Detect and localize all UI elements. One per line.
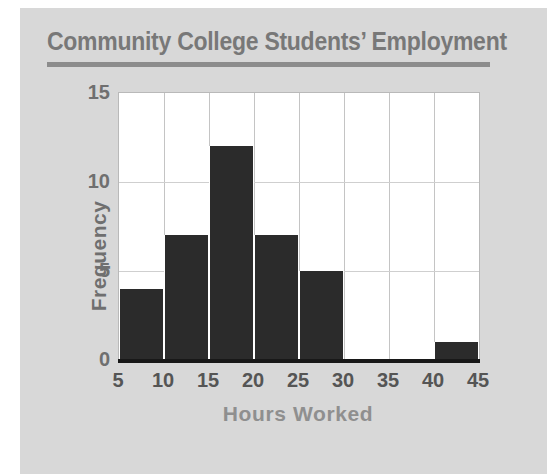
histogram-bar [254,235,299,360]
x-tick-label: 25 [276,368,320,392]
x-axis-label: Hours Worked [118,402,478,426]
histogram-bar [434,342,479,360]
x-tick-label: 20 [231,368,275,392]
histogram-bar [299,271,344,360]
x-tick-label: 15 [186,368,230,392]
chart-figure: Community College Students’ Employment F… [20,8,547,474]
y-tick-label: 0 [70,349,110,369]
x-tick-label: 30 [321,368,365,392]
title-block: Community College Students’ Employment [47,26,517,67]
x-tick-label: 40 [411,368,455,392]
page-title: Community College Students’ Employment [47,26,479,56]
x-tick-label: 45 [456,368,500,392]
x-tick-label: 5 [96,368,140,392]
x-tick-label: 35 [366,368,410,392]
y-axis-ticks: Frequency 051015 [62,92,110,359]
x-axis-ticks: 51015202530354045 [118,368,478,396]
title-underline-rule [47,62,490,67]
y-tick-label: 15 [70,82,110,102]
plot-area [118,92,480,361]
y-tick-label: 10 [70,171,110,191]
bars-layer [119,93,479,360]
x-axis-line [118,359,480,363]
histogram-bar [164,235,209,360]
y-tick-label: 5 [70,260,110,280]
y-axis-label: Frequency [87,201,111,312]
histogram-bar [209,146,254,360]
histogram-bar [119,289,164,360]
x-tick-label: 10 [141,368,185,392]
